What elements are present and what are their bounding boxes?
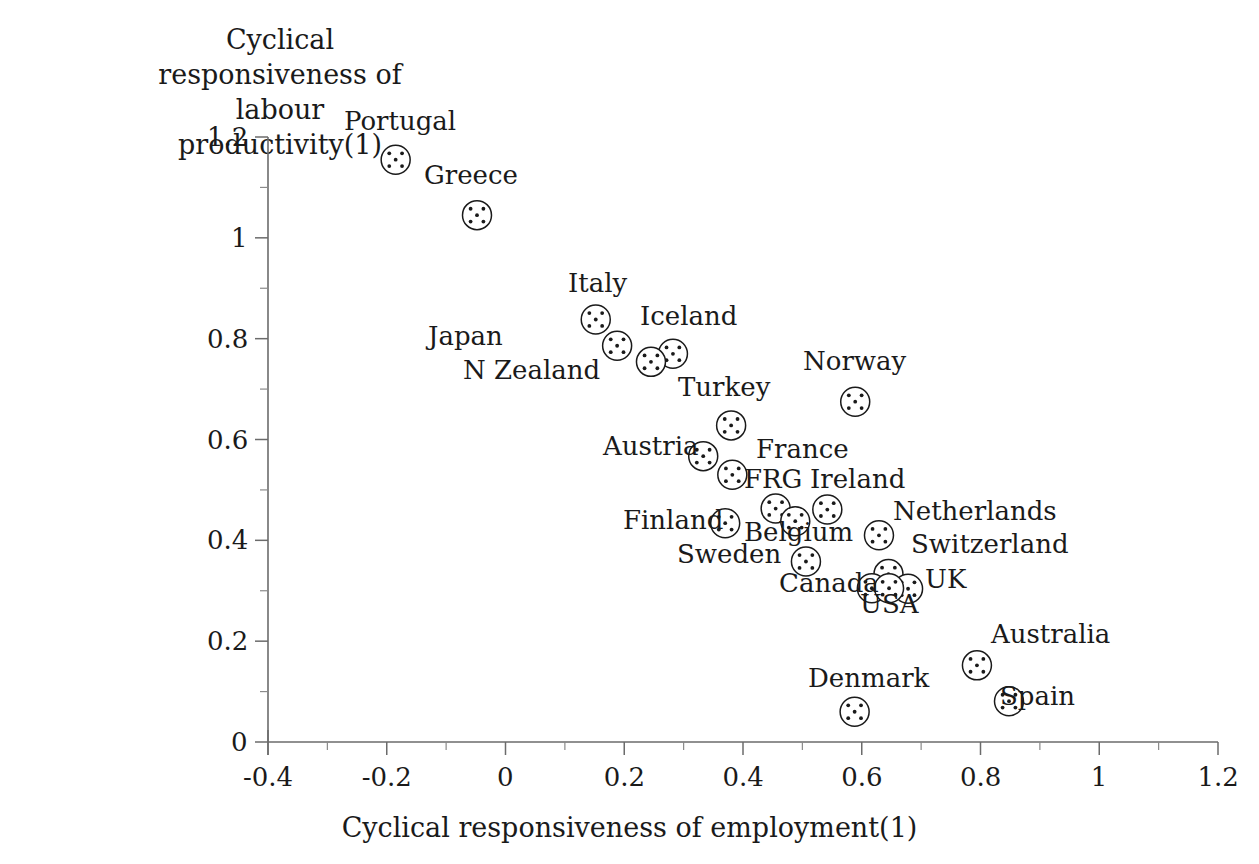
marker-dot xyxy=(810,553,814,557)
marker-dot xyxy=(724,479,728,483)
marker-dot xyxy=(913,580,917,584)
marker-dot xyxy=(737,479,741,483)
data-point-marker[interactable] xyxy=(381,145,410,174)
y-tick-label: 0.6 xyxy=(207,427,248,453)
x-tick-label: 1.2 xyxy=(1198,764,1239,790)
marker-dot xyxy=(655,366,659,370)
marker-dot xyxy=(600,324,604,328)
data-point-marker[interactable] xyxy=(463,201,492,230)
marker-dot xyxy=(724,466,728,470)
marker-dot xyxy=(853,400,857,404)
marker-dot xyxy=(975,663,979,667)
point-label-japan: Japan xyxy=(428,323,503,350)
marker-dot xyxy=(881,580,885,584)
point-label-france: France xyxy=(756,436,849,463)
marker-dot xyxy=(969,657,973,661)
marker-dot xyxy=(736,430,740,434)
data-point-marker[interactable] xyxy=(603,331,632,360)
marker-dot xyxy=(708,448,712,452)
x-tick-label: -0.2 xyxy=(362,764,412,790)
marker-dot xyxy=(482,207,486,211)
data-point-marker[interactable] xyxy=(636,347,665,376)
x-tick-label: 1 xyxy=(1091,764,1108,790)
marker-dot xyxy=(737,466,741,470)
data-point-marker[interactable] xyxy=(718,460,747,489)
y-tick-label: 0.2 xyxy=(207,628,248,654)
marker-dot xyxy=(871,527,875,531)
marker-dot xyxy=(729,423,733,427)
marker-dot xyxy=(643,354,647,358)
marker-dot xyxy=(730,528,734,532)
marker-dot xyxy=(798,553,802,557)
marker-dot xyxy=(482,220,486,224)
marker-dot xyxy=(774,507,778,511)
marker-dot xyxy=(708,461,712,465)
marker-dot xyxy=(723,521,727,525)
marker-dot xyxy=(883,540,887,544)
data-point-marker[interactable] xyxy=(962,651,991,680)
marker-dot xyxy=(981,657,985,661)
marker-dot xyxy=(723,430,727,434)
marker-dot xyxy=(671,352,675,356)
point-label-italy: Italy xyxy=(568,270,627,297)
x-tick-label: -0.4 xyxy=(243,764,293,790)
point-label-frg: FRG xyxy=(744,466,802,493)
x-tick-label: 0 xyxy=(497,764,514,790)
marker-dot xyxy=(847,393,851,397)
point-label-usa: USA xyxy=(860,591,919,618)
point-label-n-zealand: N Zealand xyxy=(463,357,600,384)
point-label-turkey: Turkey xyxy=(678,374,770,401)
point-label-ireland: Ireland xyxy=(810,466,905,493)
marker-dot xyxy=(780,500,784,504)
marker-dot xyxy=(600,311,604,315)
marker-dot xyxy=(609,350,613,354)
x-tick-label: 0.2 xyxy=(604,764,645,790)
marker-dot xyxy=(643,366,647,370)
y-tick-label: 0.4 xyxy=(207,527,248,553)
marker-dot xyxy=(655,354,659,358)
marker-dot xyxy=(475,213,479,217)
marker-dot xyxy=(649,360,653,364)
y-tick-label: 0.8 xyxy=(207,326,248,352)
point-label-uk: UK xyxy=(925,566,966,593)
marker-dot xyxy=(587,324,591,328)
marker-dot xyxy=(400,151,404,155)
marker-dot xyxy=(723,417,727,421)
data-point-marker[interactable] xyxy=(717,411,746,440)
marker-dot xyxy=(394,158,398,162)
marker-dot xyxy=(860,393,864,397)
point-label-netherlands: Netherlands xyxy=(893,498,1057,525)
marker-dot xyxy=(894,580,898,584)
point-label-norway: Norway xyxy=(803,348,906,375)
point-label-denmark: Denmark xyxy=(808,665,929,692)
data-point-marker[interactable] xyxy=(840,697,869,726)
x-axis-title: Cyclical responsiveness of employment(1) xyxy=(0,812,1259,843)
marker-dot xyxy=(847,406,851,410)
marker-dot xyxy=(871,540,875,544)
marker-dot xyxy=(860,406,864,410)
marker-dot xyxy=(609,337,613,341)
marker-dot xyxy=(883,527,887,531)
marker-dot xyxy=(877,533,881,537)
marker-dot xyxy=(767,500,771,504)
marker-dot xyxy=(594,318,598,322)
marker-dot xyxy=(677,345,681,349)
marker-dot xyxy=(969,670,973,674)
data-point-marker[interactable] xyxy=(581,305,610,334)
marker-dot xyxy=(730,473,734,477)
marker-dot xyxy=(469,207,473,211)
point-label-finland: Finland xyxy=(623,507,723,534)
marker-dot xyxy=(400,164,404,168)
marker-dot xyxy=(819,501,823,505)
x-tick-label: 0.4 xyxy=(723,764,764,790)
marker-dot xyxy=(469,220,473,224)
marker-dot xyxy=(893,566,897,570)
marker-dot xyxy=(387,151,391,155)
marker-dot xyxy=(622,337,626,341)
marker-dot xyxy=(695,461,699,465)
data-point-marker[interactable] xyxy=(864,521,893,550)
data-point-marker[interactable] xyxy=(841,387,870,416)
marker-dot xyxy=(730,515,734,519)
x-tick-label: 0.6 xyxy=(841,764,882,790)
point-label-australia: Australia xyxy=(991,621,1110,648)
